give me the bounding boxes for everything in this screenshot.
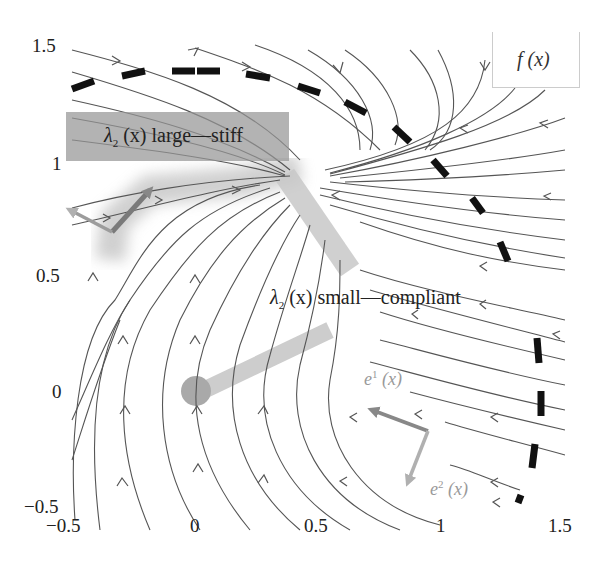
e1-superscript: 1: [372, 368, 378, 380]
x-tick-1: 1: [436, 515, 446, 537]
x-tick-1.5: 1.5: [548, 515, 572, 537]
e2-superscript: 2: [438, 478, 444, 490]
e1-arrow: [372, 410, 428, 431]
lambda-subscript: 2: [279, 299, 285, 311]
y-tick-0: 0: [52, 381, 62, 403]
e2-label: e2 (x): [430, 478, 468, 500]
stiff-label: λ2 (x) large—stiff: [104, 124, 243, 149]
lambda-symbol: λ: [104, 124, 113, 146]
fx-label: f (x): [517, 48, 550, 71]
x-tick-0.5: 0.5: [304, 515, 328, 537]
y-tick-0.5: 0.5: [36, 265, 60, 287]
e2-arrow: [408, 431, 428, 482]
y-tick-1.5: 1.5: [32, 35, 56, 57]
lambda-symbol: λ: [270, 286, 279, 308]
e1-base: e: [364, 369, 372, 389]
e1-arg: (x): [382, 369, 402, 389]
compliant-label: λ2 (x) small—compliant: [270, 286, 461, 311]
e-vectors: [372, 410, 428, 482]
e1-label: e1 (x): [364, 368, 402, 390]
stiff-label-text: (x) large—stiff: [123, 124, 243, 146]
compliant-label-text: (x) small—compliant: [289, 286, 461, 308]
lambda-subscript: 2: [113, 137, 119, 149]
y-tick-1: 1: [52, 153, 62, 175]
e2-arg: (x): [448, 479, 468, 499]
e2-base: e: [430, 479, 438, 499]
x-tick-0: 0: [190, 515, 200, 537]
x-tick-neg0.5: −0.5: [46, 515, 80, 537]
